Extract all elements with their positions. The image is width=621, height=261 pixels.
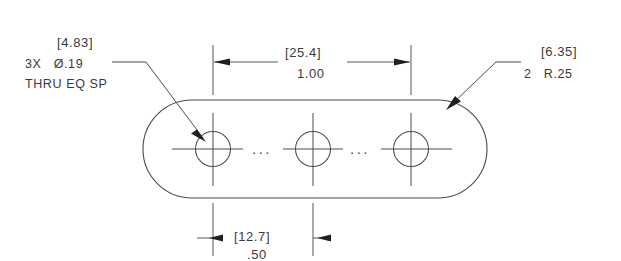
hole-1-group — [172, 113, 243, 186]
hole-3-group — [381, 113, 452, 186]
top-dim-arrowhead-right — [394, 58, 410, 65]
hole-note-detail: THRU EQ SP — [25, 77, 107, 91]
ellipsis-between-hole-2-and-3: ... — [350, 140, 370, 157]
radius-note-callout: 2 R.25 — [524, 67, 573, 81]
bottom-dim-arrowhead-right — [317, 235, 331, 242]
hole-note-metric-value: [4.83] — [57, 35, 93, 50]
bottom-dimension-value: .50 — [247, 247, 267, 261]
bottom-dimension-metric-value: [12.7] — [234, 229, 270, 244]
ellipsis-between-hole-1-and-2: ... — [252, 140, 272, 157]
hole-2-group — [283, 113, 343, 186]
radius-note-metric-value: [6.35] — [541, 44, 577, 59]
engineering-drawing: ... ... [25.4] 1.00 [12.7] .50 [4.83] 3X — [0, 0, 621, 261]
top-dim-arrowhead-left — [214, 58, 230, 65]
radius-callout-leader-line — [450, 62, 521, 106]
top-dimension-value: 1.00 — [297, 66, 325, 81]
hole-note-callout: 3X Ø.19 — [25, 57, 83, 71]
bottom-dim-arrowhead-left — [209, 235, 223, 242]
drawing-canvas: ... ... [25.4] 1.00 [12.7] .50 [4.83] 3X — [0, 0, 621, 261]
top-dimension-metric-value: [25.4] — [285, 45, 321, 60]
